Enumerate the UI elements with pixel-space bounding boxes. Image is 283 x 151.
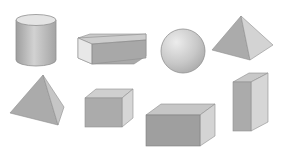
large-rectangular-prism-shape [146,104,215,146]
shapes-figure: 3D geometric solids Cylinder Rectangular… [0,0,283,151]
triangular-pyramid-shape [10,75,64,125]
tall-rectangular-prism-shape [233,73,268,131]
sphere-shape [161,29,205,73]
flat-rectangular-prism-shape [78,34,146,64]
cube-shape [85,89,133,127]
cylinder-shape [16,15,56,67]
square-pyramid-shape [212,16,273,60]
